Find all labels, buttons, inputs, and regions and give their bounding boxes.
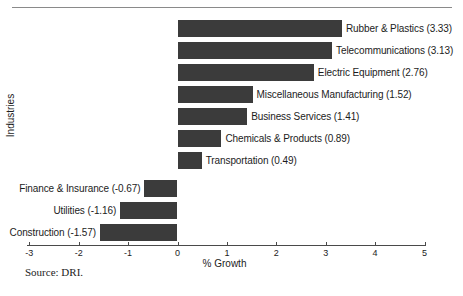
bar-row: Construction (-1.57)	[0, 224, 463, 241]
bar	[144, 180, 177, 197]
x-axis-tick	[375, 242, 376, 246]
bar	[178, 86, 253, 103]
bar-row: Electric Equipment (2.76)	[0, 64, 463, 81]
x-axis-tick	[425, 242, 426, 246]
x-axis-tick	[128, 242, 129, 246]
bar-row: Telecommunications (3.13)	[0, 42, 463, 59]
bar	[178, 42, 333, 59]
bar	[100, 224, 178, 241]
bar-value-label: Electric Equipment (2.76)	[318, 65, 428, 80]
x-axis-tick	[29, 242, 30, 246]
bar	[178, 64, 314, 81]
bar-value-label: Transportation (0.49)	[206, 153, 297, 168]
x-axis-tick	[326, 242, 327, 246]
bar-value-label: Finance & Insurance (-0.67)	[19, 181, 140, 196]
bar-row: Business Services (1.41)	[0, 108, 463, 125]
bar-row: Chemicals & Products (0.89)	[0, 130, 463, 147]
bar-row: Miscellaneous Manufacturing (1.52)	[0, 86, 463, 103]
x-axis-label-text: % Growth	[203, 258, 247, 269]
bar-row: Transportation (0.49)	[0, 152, 463, 169]
bar	[178, 20, 343, 37]
x-axis-tick	[79, 242, 80, 246]
bar	[178, 130, 222, 147]
bar-row: Utilities (-1.16)	[0, 202, 463, 219]
growth-by-industry-chart: Rubber & Plastics (3.33)Telecommunicatio…	[0, 0, 463, 296]
x-axis-tick	[276, 242, 277, 246]
bar-value-label: Rubber & Plastics (3.33)	[346, 21, 452, 36]
bar-value-label: Telecommunications (3.13)	[336, 43, 453, 58]
y-axis-label: Industries	[5, 86, 16, 146]
bar-value-label: Miscellaneous Manufacturing (1.52)	[257, 87, 412, 102]
plot-area: Rubber & Plastics (3.33)Telecommunicatio…	[0, 14, 463, 244]
top-divider	[12, 7, 452, 8]
x-axis-tick	[227, 242, 228, 246]
bar-value-label: Business Services (1.41)	[251, 109, 359, 124]
source-note: Source: DRI.	[25, 266, 83, 278]
x-axis-tick	[178, 242, 179, 246]
bar	[178, 152, 202, 169]
bar-value-label: Chemicals & Products (0.89)	[225, 131, 350, 146]
bar-value-label: Construction (-1.57)	[10, 225, 96, 240]
bar-row: Finance & Insurance (-0.67)	[0, 180, 463, 197]
bar-row: Rubber & Plastics (3.33)	[0, 20, 463, 37]
bar	[120, 202, 177, 219]
bar	[178, 108, 248, 125]
bar-value-label: Utilities (-1.16)	[53, 203, 116, 218]
